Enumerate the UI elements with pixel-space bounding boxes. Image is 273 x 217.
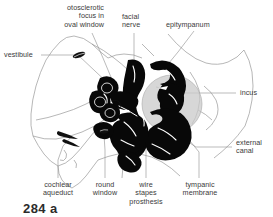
figure-number: 284 a xyxy=(23,201,58,216)
label-epitympanum: epitympanum xyxy=(166,21,226,29)
label-facial-nerve: facial nerve xyxy=(122,13,162,30)
label-vestibule: vestibule xyxy=(4,51,44,59)
leader-round-window xyxy=(104,135,105,178)
leader-otosclerotic-focus xyxy=(92,33,113,82)
label-cochlear-aqueduct: cochlear aqueduct xyxy=(28,181,88,198)
label-external-canal: external canal xyxy=(236,139,273,156)
cochlear-aqueduct-marker xyxy=(57,131,80,147)
bone-outlines xyxy=(31,34,253,188)
vestibule-marker xyxy=(72,51,86,60)
label-otosclerotic-focus: otosclerotic focus in oval window xyxy=(38,4,104,29)
label-incus: incus xyxy=(240,89,272,97)
ossicular-masses xyxy=(89,59,191,172)
label-wire-stapes-prosthesis: wire stapes prosthesis xyxy=(118,181,174,206)
figure-panel: otosclerotic focus in oval window facial… xyxy=(0,0,273,217)
label-tympanic-membrane: tympanic membrane xyxy=(172,181,228,198)
